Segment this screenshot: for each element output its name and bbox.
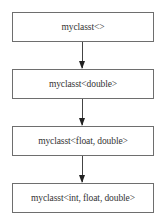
node-label: myclasst<> <box>62 22 105 32</box>
arrow-down-icon <box>82 99 83 125</box>
node-label: myclasst<float, double> <box>38 136 128 146</box>
arrow-down-icon <box>82 42 83 68</box>
node-myclasst-int-float-double: myclasst<int, float, double> <box>12 183 154 213</box>
node-myclasst-double: myclasst<double> <box>12 69 154 99</box>
node-label: myclasst<double> <box>49 79 117 89</box>
node-label: myclasst<int, float, double> <box>31 193 135 203</box>
node-myclasst-empty: myclasst<> <box>12 12 154 42</box>
arrow-down-icon <box>82 156 83 182</box>
node-myclasst-float-double: myclasst<float, double> <box>12 126 154 156</box>
